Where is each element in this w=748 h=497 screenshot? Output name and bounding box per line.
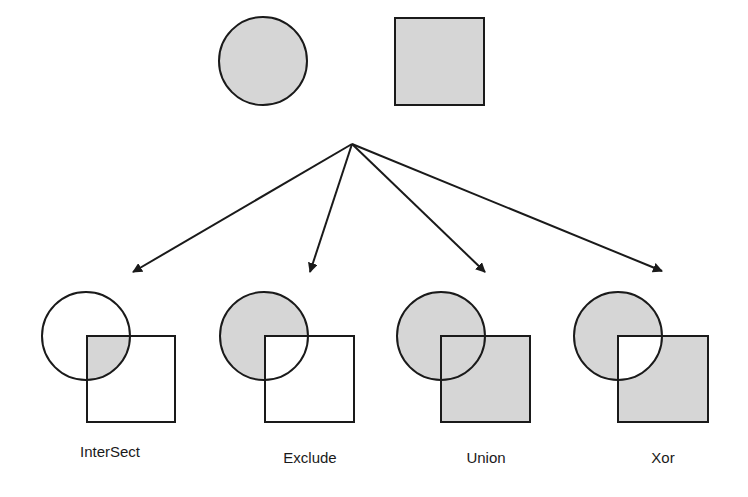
arrows-group — [133, 144, 662, 272]
union-result — [397, 292, 530, 422]
arrow-to-intersect — [133, 144, 352, 272]
xor-label: Xor — [651, 449, 674, 466]
square-fill — [441, 336, 530, 422]
arrow-to-exclude — [310, 144, 352, 272]
intersection-fill — [87, 336, 175, 422]
intersect-label: InterSect — [80, 443, 141, 460]
arrow-to-union — [352, 144, 485, 272]
boolean-operations-diagram: InterSect Exclude Union Xor — [0, 0, 748, 497]
exclude-label: Exclude — [283, 449, 336, 466]
arrow-to-xor — [352, 144, 662, 271]
xor-result — [574, 292, 708, 422]
source-circle — [219, 17, 307, 105]
intersect-result — [42, 292, 175, 422]
source-square — [395, 18, 484, 105]
union-label: Union — [466, 449, 505, 466]
exclude-result — [220, 292, 354, 422]
excluded-area — [265, 336, 354, 422]
